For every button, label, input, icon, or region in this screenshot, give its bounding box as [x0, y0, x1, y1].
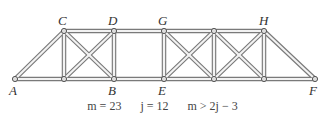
truss-equation: m = 23 j = 12 m > 2j − 3 — [0, 99, 325, 114]
joint-label-E: E — [158, 84, 166, 97]
joint-label-F: F — [309, 84, 317, 97]
joint-label-H: H — [259, 14, 268, 27]
member-count: m = 23 — [87, 99, 121, 113]
joint-label-G: G — [158, 14, 167, 27]
joint-count: j = 12 — [140, 99, 168, 113]
joint-label-B: B — [108, 84, 116, 97]
joint-label-D: D — [108, 14, 117, 27]
joint-label-A: A — [9, 84, 17, 97]
stability-condition: m > 2j − 3 — [188, 99, 238, 113]
joint-label-C: C — [58, 14, 67, 27]
